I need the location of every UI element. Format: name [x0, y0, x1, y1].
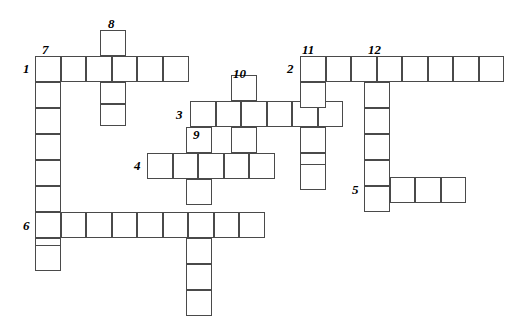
- crossword-cell[interactable]: [137, 56, 163, 82]
- clue-number-7: 7: [42, 43, 49, 56]
- crossword-cell[interactable]: [364, 134, 390, 160]
- crossword-cell[interactable]: [35, 108, 61, 134]
- crossword-cell[interactable]: [239, 212, 265, 238]
- clue-number-3: 3: [176, 108, 183, 121]
- crossword-cell[interactable]: [300, 164, 326, 190]
- crossword-cell[interactable]: [100, 104, 126, 126]
- crossword-cell[interactable]: [453, 56, 479, 82]
- crossword-cell[interactable]: [186, 290, 212, 316]
- crossword-cell[interactable]: [61, 56, 87, 82]
- crossword-cell[interactable]: [86, 56, 112, 82]
- clue-number-9: 9: [193, 128, 200, 141]
- crossword-cell[interactable]: [415, 177, 441, 203]
- crossword-cell[interactable]: [100, 30, 126, 56]
- crossword-cell[interactable]: [390, 177, 416, 203]
- crossword-cell[interactable]: [86, 212, 112, 238]
- crossword-cell[interactable]: [300, 127, 326, 153]
- crossword-cell[interactable]: [163, 56, 190, 82]
- crossword-cell[interactable]: [216, 101, 242, 127]
- crossword-cell[interactable]: [112, 212, 138, 238]
- crossword-cell[interactable]: [186, 238, 212, 264]
- crossword-cell[interactable]: [364, 108, 390, 134]
- crossword-cell[interactable]: [173, 153, 199, 179]
- crossword-cell[interactable]: [35, 82, 61, 108]
- crossword-cell[interactable]: [326, 56, 352, 82]
- crossword-cell[interactable]: [214, 212, 240, 238]
- crossword-cell[interactable]: [300, 82, 326, 108]
- crossword-cell[interactable]: [364, 160, 390, 186]
- crossword-cell[interactable]: [300, 56, 326, 82]
- clue-number-4: 4: [134, 159, 141, 172]
- clue-number-2: 2: [287, 62, 294, 75]
- crossword-cell[interactable]: [100, 82, 126, 104]
- crossword-cell[interactable]: [35, 134, 61, 160]
- crossword-cell[interactable]: [364, 82, 390, 108]
- crossword-cell[interactable]: [35, 56, 61, 82]
- clue-number-11: 11: [302, 43, 314, 56]
- crossword-cell[interactable]: [112, 56, 138, 82]
- clue-number-6: 6: [23, 219, 30, 232]
- crossword-cell[interactable]: [402, 56, 428, 82]
- crossword-cell[interactable]: [137, 212, 163, 238]
- crossword-cell[interactable]: [198, 153, 224, 179]
- crossword-cell[interactable]: [35, 212, 61, 238]
- crossword-puzzle-grid: 871112121039456: [0, 0, 519, 324]
- crossword-cell[interactable]: [163, 212, 189, 238]
- crossword-cell[interactable]: [241, 101, 267, 127]
- crossword-cell[interactable]: [351, 56, 377, 82]
- crossword-cell[interactable]: [186, 264, 212, 290]
- crossword-cell[interactable]: [249, 153, 275, 179]
- crossword-cell[interactable]: [186, 179, 212, 205]
- clue-number-1: 1: [23, 62, 30, 75]
- crossword-cell[interactable]: [479, 56, 505, 82]
- crossword-cell[interactable]: [231, 127, 257, 153]
- crossword-cell[interactable]: [61, 212, 87, 238]
- crossword-cell[interactable]: [188, 212, 214, 238]
- crossword-cell[interactable]: [190, 101, 216, 127]
- crossword-cell[interactable]: [377, 56, 403, 82]
- crossword-cell[interactable]: [35, 160, 61, 186]
- clue-number-5: 5: [352, 183, 359, 196]
- crossword-cell[interactable]: [441, 177, 467, 203]
- crossword-cell[interactable]: [267, 101, 293, 127]
- crossword-cell[interactable]: [224, 153, 250, 179]
- crossword-cell[interactable]: [428, 56, 454, 82]
- clue-number-8: 8: [108, 17, 115, 30]
- crossword-cell[interactable]: [147, 153, 173, 179]
- crossword-cell[interactable]: [364, 186, 390, 212]
- crossword-cell[interactable]: [35, 245, 61, 271]
- clue-number-12: 12: [368, 43, 381, 56]
- clue-number-10: 10: [233, 67, 246, 80]
- crossword-cell[interactable]: [35, 186, 61, 212]
